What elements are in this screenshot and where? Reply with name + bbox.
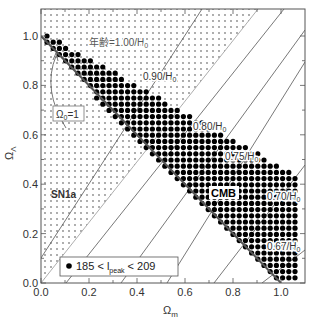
svg-text:0.0: 0.0 (23, 277, 38, 289)
svg-text:0.70/H0: 0.70/H0 (267, 191, 300, 203)
svg-text:0.6: 0.6 (177, 286, 192, 298)
svg-text:1.0: 1.0 (273, 286, 288, 298)
legend-dot-icon (66, 263, 72, 269)
svg-text:0.80/H0: 0.80/H0 (193, 121, 226, 133)
cmb-label: CMB (211, 187, 236, 199)
x-axis-title: Ωm (163, 304, 178, 319)
svg-text:0.2: 0.2 (81, 286, 96, 298)
svg-text:0.67/H0: 0.67/H0 (267, 241, 300, 253)
svg-text:0.90/H0: 0.90/H0 (143, 71, 176, 83)
svg-text:年齢=1.00/H0: 年齢=1.00/H0 (89, 36, 148, 49)
svg-text:0.4: 0.4 (23, 178, 38, 190)
y-axis-title: ΩΛ (3, 146, 18, 160)
svg-text:0.75/H0: 0.75/H0 (225, 151, 258, 163)
sn1a-label: SN1a (51, 189, 76, 200)
svg-text:0.4: 0.4 (129, 286, 144, 298)
y-tick-labels: 0.0 0.2 0.4 0.6 0.8 1.0 (23, 30, 38, 289)
svg-text:0.8: 0.8 (23, 79, 38, 91)
omega0-label: Ω0=1 (56, 109, 79, 121)
x-tick-labels: 0.0 0.2 0.4 0.6 0.8 1.0 (33, 286, 288, 298)
svg-text:0.2: 0.2 (23, 228, 38, 240)
svg-text:0.8: 0.8 (225, 286, 240, 298)
svg-text:0.6: 0.6 (23, 129, 38, 141)
svg-text:1.0: 1.0 (23, 30, 38, 42)
cosmology-chart: 0.0 0.2 0.4 0.6 0.8 1.0 0.0 0.2 0.4 0.6 … (0, 0, 313, 320)
